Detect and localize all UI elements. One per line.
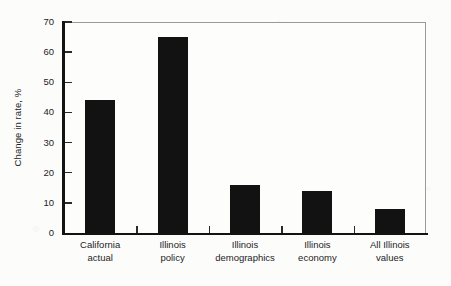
x-tick-mark	[281, 226, 282, 233]
y-tick-label: 40	[8, 107, 54, 117]
bar-chart-figure: Change in rate, % 010203040506070 Califo…	[0, 0, 451, 286]
y-tick-label: 0	[8, 228, 54, 238]
bar	[302, 191, 332, 233]
y-tick-label: 30	[8, 138, 54, 148]
bar	[85, 100, 115, 233]
x-label-line-1: All Illinois	[342, 239, 438, 252]
x-tick-mark	[354, 226, 355, 233]
bar	[230, 185, 260, 233]
y-tick-mark	[65, 21, 72, 22]
y-tick-mark	[65, 142, 72, 143]
y-tick-label: 70	[8, 17, 54, 27]
y-tick-label: 20	[8, 168, 54, 178]
y-tick-label: 50	[8, 77, 54, 87]
y-tick-label: 10	[8, 198, 54, 208]
x-axis-category-label: All Illinoisvalues	[342, 239, 438, 264]
y-tick-mark	[65, 172, 72, 173]
x-tick-mark	[209, 226, 210, 233]
y-tick-mark	[65, 112, 72, 113]
x-tick-mark	[136, 226, 137, 233]
bar	[158, 37, 188, 233]
y-tick-label: 60	[8, 47, 54, 57]
y-tick-mark	[65, 202, 72, 203]
y-tick-mark	[65, 82, 72, 83]
bar	[375, 209, 405, 233]
x-label-line-2: values	[342, 252, 438, 265]
y-tick-mark	[65, 51, 72, 52]
